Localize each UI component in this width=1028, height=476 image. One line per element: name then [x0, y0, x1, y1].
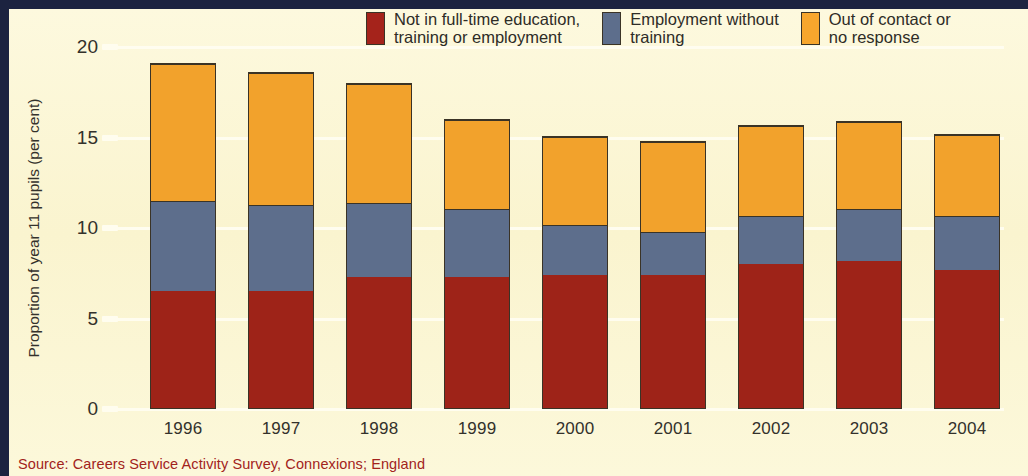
chart-legend: Not in full-time education, training or … [366, 11, 951, 46]
bar-segment [249, 73, 313, 204]
y-axis-tick-mark [102, 135, 118, 141]
bar-segment [543, 137, 607, 225]
y-axis-tick-mark [102, 225, 118, 231]
bar-segment [347, 277, 411, 408]
source-note: Source: Careers Service Activity Survey,… [18, 456, 425, 472]
bar-segment [445, 277, 509, 408]
frame-top-border [0, 0, 1028, 9]
legend-label-out-of-contact: Out of contact or no response [829, 11, 951, 46]
bar-2003 [836, 121, 902, 409]
bar-segment [445, 209, 509, 277]
bar-segment [543, 275, 607, 408]
chart-figure: Not in full-time education, training or … [0, 0, 1028, 476]
bar-segment [739, 264, 803, 408]
bar-2001 [640, 141, 706, 409]
x-axis-tick-label: 2002 [728, 419, 814, 439]
bar-segment [151, 201, 215, 291]
y-axis-tick-label: 10 [77, 217, 98, 239]
x-axis-tick-label: 2003 [826, 419, 912, 439]
bar-segment [151, 64, 215, 201]
y-axis-tick-label: 20 [77, 36, 98, 58]
bar-segment [739, 216, 803, 265]
bar-segment [837, 261, 901, 408]
bar-segment [249, 205, 313, 291]
y-axis-title: Proportion of year 11 pupils (per cent) [22, 47, 46, 409]
bar-segment [445, 120, 509, 208]
gridline [118, 46, 1004, 49]
bar-1999 [444, 119, 510, 409]
plot-area: 0510152019961997199819992000200120022003… [118, 47, 1004, 409]
legend-swatch-blue [602, 12, 621, 45]
bar-segment [543, 225, 607, 275]
x-axis-tick-label: 1997 [238, 419, 324, 439]
frame-left-border [0, 0, 9, 476]
legend-label-employment-without-training: Employment without training [630, 11, 779, 46]
legend-item-not-in-education: Not in full-time education, training or … [366, 11, 580, 46]
bar-2004 [934, 134, 1000, 409]
legend-item-out-of-contact: Out of contact or no response [801, 11, 951, 46]
bar-segment [935, 216, 999, 270]
bar-segment [151, 291, 215, 408]
x-axis-tick-label: 1998 [336, 419, 422, 439]
bar-segment [641, 232, 705, 275]
x-axis-tick-label: 1999 [434, 419, 520, 439]
legend-label-not-in-education: Not in full-time education, training or … [394, 11, 580, 46]
legend-swatch-orange [801, 12, 820, 45]
bar-1997 [248, 72, 314, 409]
bar-segment [347, 84, 411, 203]
bar-segment [347, 203, 411, 277]
bar-segment [739, 126, 803, 216]
x-axis-tick-label: 2001 [630, 419, 716, 439]
y-axis-tick-mark [102, 316, 118, 322]
bar-segment [641, 275, 705, 408]
x-axis-tick-label: 2000 [532, 419, 618, 439]
y-axis-title-text: Proportion of year 11 pupils (per cent) [25, 98, 43, 357]
y-axis-tick-label: 15 [77, 127, 98, 149]
y-axis-tick-label: 5 [87, 308, 98, 330]
y-axis-tick-label: 0 [87, 398, 98, 420]
legend-swatch-red [366, 12, 385, 45]
bar-2000 [542, 136, 608, 409]
x-axis-tick-label: 2004 [924, 419, 1010, 439]
legend-item-employment-without-training: Employment without training [602, 11, 779, 46]
bar-segment [935, 270, 999, 408]
bar-1998 [346, 83, 412, 409]
bar-segment [641, 142, 705, 232]
x-axis-tick-label: 1996 [140, 419, 226, 439]
bar-segment [837, 122, 901, 208]
y-axis-tick-mark [102, 44, 118, 50]
bar-segment [249, 291, 313, 408]
bar-segment [837, 209, 901, 261]
bar-1996 [150, 63, 216, 409]
y-axis-tick-mark [102, 406, 118, 412]
bar-2002 [738, 125, 804, 409]
bar-segment [935, 135, 999, 216]
